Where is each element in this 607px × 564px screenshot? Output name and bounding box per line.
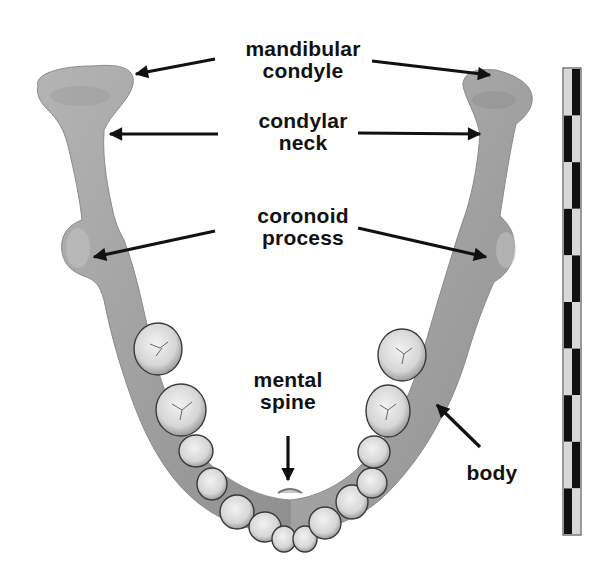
label-line: condylar bbox=[213, 110, 393, 132]
tooth bbox=[358, 436, 390, 468]
label-line: process bbox=[213, 227, 393, 249]
label-line: neck bbox=[213, 132, 393, 154]
label-line: mandibular bbox=[213, 38, 393, 60]
label-coronoid-process: coronoid process bbox=[213, 205, 393, 249]
label-line: body bbox=[452, 462, 532, 484]
tooth bbox=[197, 468, 227, 500]
arrow-body bbox=[437, 405, 480, 447]
label-condylar-neck: condylar neck bbox=[213, 110, 393, 154]
label-mental-spine: mental spine bbox=[213, 369, 363, 413]
tooth bbox=[179, 435, 213, 467]
mental-spine-mark bbox=[278, 489, 302, 493]
tooth bbox=[134, 323, 182, 375]
label-mandibular-condyle: mandibular condyle bbox=[213, 38, 393, 82]
arrow-mandibular-condyle-left bbox=[136, 59, 215, 74]
tooth bbox=[357, 468, 387, 498]
tooth bbox=[378, 329, 426, 381]
label-line: mental bbox=[213, 369, 363, 391]
label-line: condyle bbox=[213, 60, 393, 82]
label-body: body bbox=[452, 462, 532, 484]
tooth bbox=[309, 507, 341, 539]
label-line: spine bbox=[213, 391, 363, 413]
label-line: coronoid bbox=[213, 205, 393, 227]
tooth bbox=[156, 384, 206, 436]
scale-bar bbox=[563, 68, 581, 535]
